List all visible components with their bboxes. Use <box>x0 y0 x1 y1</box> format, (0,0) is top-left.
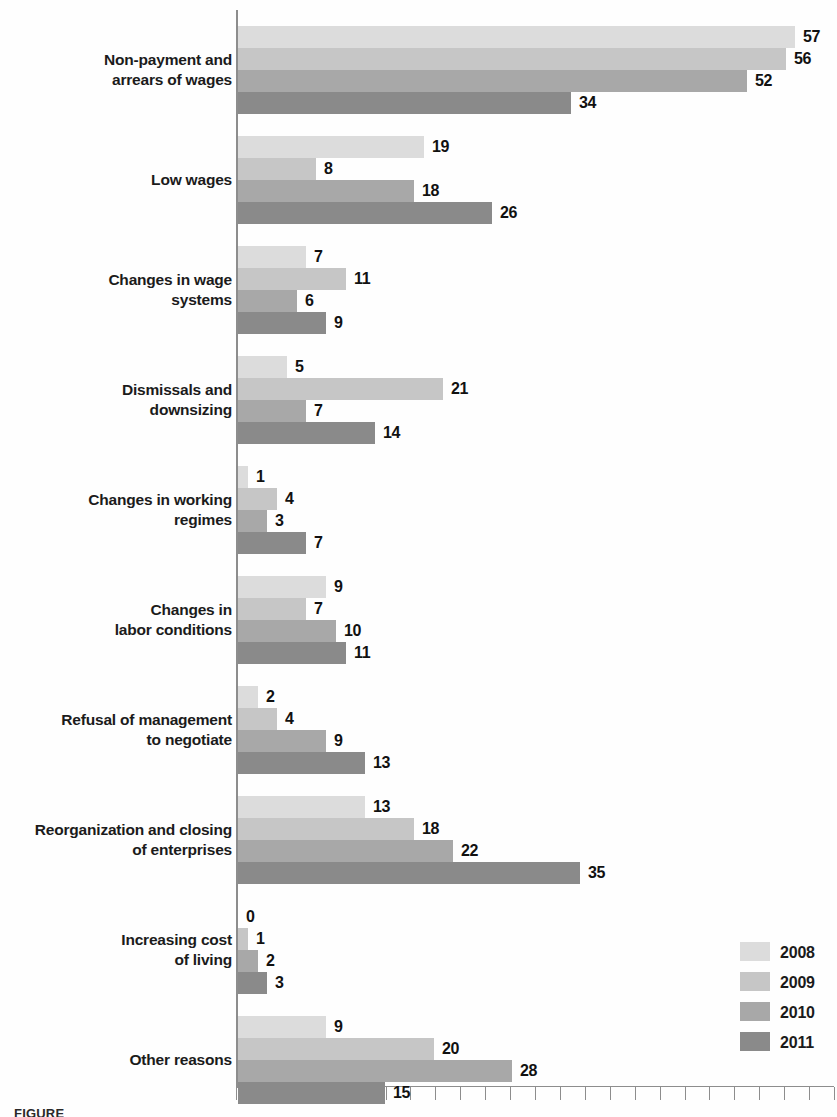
bar-2011 <box>238 972 267 994</box>
bar-group: Changes inlabor conditions971011 <box>0 576 837 664</box>
legend-item-2011: 2011 <box>740 1028 837 1058</box>
bar-value-label: 10 <box>344 620 361 642</box>
bar-value-label: 8 <box>324 158 333 180</box>
bar-2011 <box>238 312 326 334</box>
bar-2010 <box>238 290 297 312</box>
bar-value-label: 7 <box>314 246 323 268</box>
bar-group: Changes in wagesystems71169 <box>0 246 837 334</box>
bar-2008 <box>238 26 795 48</box>
category-label: Non-payment andarrears of wages <box>0 50 232 90</box>
bar-2010 <box>238 730 326 752</box>
bar-group: Increasing costof living0123 <box>0 906 837 994</box>
figure-page: Non-payment andarrears of wages57565234L… <box>0 0 837 1117</box>
bar-value-label: 9 <box>334 1016 343 1038</box>
bar-value-label: 13 <box>373 796 390 818</box>
bar-2010 <box>238 400 306 422</box>
bar-group: Changes in workingregimes1437 <box>0 466 837 554</box>
bar-value-label: 7 <box>314 400 323 422</box>
category-label: Increasing costof living <box>0 930 232 970</box>
bar-2009 <box>238 598 306 620</box>
legend-swatch <box>740 1032 770 1051</box>
bar-value-label: 4 <box>285 708 294 730</box>
legend-item-2010: 2010 <box>740 998 837 1028</box>
bar-value-label: 2 <box>266 950 275 972</box>
bar-value-label: 2 <box>266 686 275 708</box>
legend-swatch <box>740 942 770 961</box>
bar-2010 <box>238 510 267 532</box>
bar-value-label: 4 <box>285 488 294 510</box>
legend-swatch <box>740 1002 770 1021</box>
bar-value-label: 52 <box>755 70 772 92</box>
bar-2009 <box>238 158 316 180</box>
bar-value-label: 57 <box>803 26 820 48</box>
category-label: Refusal of managementto negotiate <box>0 710 232 750</box>
bar-value-label: 15 <box>393 1082 410 1104</box>
figure-caption: FIGURE <box>14 1106 64 1117</box>
bar-value-label: 11 <box>354 642 370 664</box>
bar-group: Dismissals anddownsizing521714 <box>0 356 837 444</box>
bar-value-label: 18 <box>422 180 439 202</box>
category-label: Dismissals anddownsizing <box>0 380 232 420</box>
legend-label: 2009 <box>780 968 815 998</box>
bar-2009 <box>238 268 346 290</box>
bar-group: Other reasons9202815 <box>0 1016 837 1104</box>
bar-value-label: 5 <box>295 356 304 378</box>
legend-item-2009: 2009 <box>740 968 837 998</box>
bar-2011 <box>238 422 375 444</box>
bar-2011 <box>238 752 365 774</box>
bar-2011 <box>238 202 492 224</box>
category-label: Changes in wagesystems <box>0 270 232 310</box>
bar-2010 <box>238 1060 512 1082</box>
bar-value-label: 21 <box>451 378 468 400</box>
bar-value-label: 14 <box>383 422 400 444</box>
bar-2008 <box>238 686 258 708</box>
bar-group: Refusal of managementto negotiate24913 <box>0 686 837 774</box>
bar-2009 <box>238 708 277 730</box>
bar-value-label: 3 <box>275 972 284 994</box>
bar-value-label: 26 <box>500 202 517 224</box>
bar-value-label: 7 <box>314 598 323 620</box>
chart-legend: 2008200920102011 <box>740 938 837 1058</box>
bar-value-label: 9 <box>334 576 343 598</box>
legend-label: 2010 <box>780 998 815 1028</box>
legend-label: 2008 <box>780 938 815 968</box>
bar-2009 <box>238 378 443 400</box>
bar-value-label: 0 <box>246 906 255 928</box>
bar-2011 <box>238 92 571 114</box>
legend-swatch <box>740 972 770 991</box>
bar-value-label: 1 <box>256 928 265 950</box>
category-label: Reorganization and closingof enterprises <box>0 820 232 860</box>
bar-value-label: 19 <box>432 136 449 158</box>
bar-value-label: 11 <box>354 268 370 290</box>
bar-2011 <box>238 1082 385 1104</box>
bar-2011 <box>238 862 580 884</box>
bar-2011 <box>238 532 306 554</box>
legend-label: 2011 <box>780 1028 814 1058</box>
bar-value-label: 6 <box>305 290 314 312</box>
bar-2009 <box>238 1038 434 1060</box>
bar-2010 <box>238 70 747 92</box>
bar-value-label: 9 <box>334 312 343 334</box>
bar-2009 <box>238 488 277 510</box>
bar-2009 <box>238 48 786 70</box>
bar-value-label: 7 <box>314 532 323 554</box>
bar-2009 <box>238 818 414 840</box>
bar-2010 <box>238 180 414 202</box>
bar-2008 <box>238 136 424 158</box>
category-label: Changes in workingregimes <box>0 490 232 530</box>
category-label: Other reasons <box>0 1050 232 1070</box>
bar-value-label: 35 <box>588 862 605 884</box>
bar-value-label: 56 <box>794 48 811 70</box>
category-label: Low wages <box>0 170 232 190</box>
bar-value-label: 1 <box>256 466 265 488</box>
bar-value-label: 18 <box>422 818 439 840</box>
bar-chart-plot: Non-payment andarrears of wages57565234L… <box>0 0 837 1117</box>
bar-2008 <box>238 356 287 378</box>
bar-value-label: 34 <box>579 92 596 114</box>
bar-2010 <box>238 620 336 642</box>
bar-2008 <box>238 466 248 488</box>
bar-group: Non-payment andarrears of wages57565234 <box>0 26 837 114</box>
bar-group: Reorganization and closingof enterprises… <box>0 796 837 884</box>
bar-2008 <box>238 576 326 598</box>
bar-value-label: 9 <box>334 730 343 752</box>
